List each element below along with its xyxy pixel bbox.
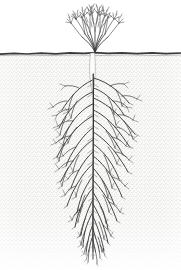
soil-body <box>0 53 181 270</box>
illustration-canvas <box>0 0 181 270</box>
root-system-figure: Plant with deep fibrous taproot system i… <box>0 0 181 270</box>
bottom-fade <box>0 252 181 270</box>
